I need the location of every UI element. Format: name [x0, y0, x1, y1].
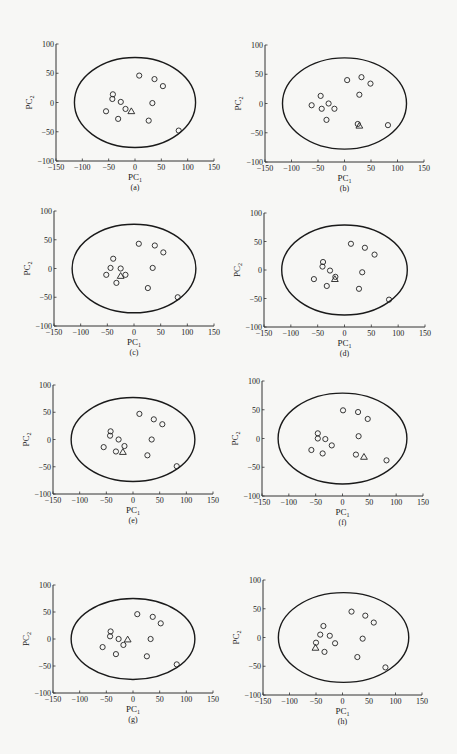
circle-marker: [122, 443, 127, 448]
x-tick-label: 50: [365, 697, 373, 706]
circle-marker: [146, 118, 151, 123]
y-tick-label: −50: [41, 128, 54, 137]
panel-caption: (a): [131, 183, 140, 192]
circle-marker: [101, 445, 106, 450]
circle-marker: [320, 451, 325, 456]
y-tick-label: 50: [46, 69, 54, 78]
confidence-ellipse: [278, 393, 407, 484]
circle-marker: [150, 100, 155, 105]
circle-marker: [174, 662, 179, 667]
pca-figure: −150−100−50050100150−100−50050100PC1(a)P…: [0, 0, 457, 754]
circle-marker: [116, 116, 121, 121]
y-tick-label: 50: [43, 608, 51, 617]
circle-marker: [332, 641, 337, 646]
x-axis-label: PC1: [126, 505, 140, 516]
x-tick-label: 0: [341, 498, 345, 507]
circle-marker: [148, 636, 153, 641]
circle-marker: [326, 101, 331, 106]
circle-marker: [116, 437, 121, 442]
circle-marker: [114, 280, 119, 285]
circle-marker: [315, 436, 320, 441]
y-tick-label: −100: [243, 492, 260, 501]
y-axis-label: PC2: [232, 263, 243, 277]
x-tick-label: −100: [283, 164, 300, 173]
circle-marker: [160, 84, 165, 89]
panel-caption: (b): [340, 184, 350, 193]
circle-marker: [329, 443, 334, 448]
circle-marker: [152, 77, 157, 82]
y-tick-label: −100: [245, 323, 262, 332]
x-axis-label: PC1: [126, 704, 140, 715]
y-tick-label: −50: [39, 293, 52, 302]
circle-marker: [323, 436, 328, 441]
x-tick-label: 50: [365, 498, 373, 507]
circle-marker: [355, 654, 360, 659]
triangle-marker: [312, 644, 319, 650]
circle-marker: [349, 609, 354, 614]
x-tick-label: −100: [74, 163, 91, 172]
circle-marker: [151, 417, 156, 422]
circle-marker: [356, 286, 361, 291]
x-tick-label: 100: [390, 498, 402, 507]
y-tick-label: 100: [42, 40, 54, 49]
y-axis-label: PC2: [233, 96, 244, 110]
y-tick-label: 50: [254, 238, 262, 247]
circle-marker: [362, 245, 367, 250]
panel-b: −150−100−50050100150−100−50050100PC1(b)P…: [233, 41, 430, 193]
x-tick-label: −50: [100, 695, 113, 704]
x-tick-label: 150: [208, 328, 220, 337]
y-tick-label: −50: [247, 463, 260, 472]
x-axis-label: PC1: [337, 338, 351, 349]
panel-g: −150−100−50050100150−100−50050100PC1(g)P…: [21, 581, 219, 724]
x-tick-label: 150: [208, 163, 220, 172]
x-tick-label: 100: [392, 329, 404, 338]
x-tick-label: −50: [310, 697, 323, 706]
circle-marker: [318, 93, 323, 98]
x-tick-label: 0: [132, 328, 136, 337]
x-tick-label: 150: [419, 329, 431, 338]
circle-marker: [353, 452, 358, 457]
x-tick-label: −100: [71, 695, 88, 704]
circle-marker: [118, 99, 123, 104]
y-tick-label: 50: [43, 408, 51, 417]
panel-a: −150−100−50050100150−100−50050100PC1(a)P…: [24, 40, 220, 192]
y-tick-label: 100: [39, 581, 51, 590]
x-tick-label: 100: [180, 496, 192, 505]
x-tick-label: −50: [311, 329, 324, 338]
circle-marker: [356, 434, 361, 439]
y-tick-label: 0: [259, 100, 263, 109]
circle-marker: [359, 75, 364, 80]
x-tick-label: 50: [156, 695, 164, 704]
circle-marker: [174, 464, 179, 469]
x-tick-label: −50: [101, 328, 114, 337]
x-tick-label: 150: [416, 697, 428, 706]
y-tick-label: 100: [40, 207, 52, 216]
circle-marker: [345, 78, 350, 83]
confidence-ellipse: [74, 57, 195, 147]
x-axis-label: PC1: [337, 173, 351, 184]
circle-marker: [108, 265, 113, 270]
circle-marker: [123, 272, 128, 277]
x-tick-label: 50: [367, 164, 375, 173]
circle-marker: [152, 243, 157, 248]
circle-marker: [324, 117, 329, 122]
y-tick-label: 100: [39, 381, 51, 390]
circle-marker: [324, 283, 329, 288]
y-tick-label: 0: [257, 634, 261, 643]
x-tick-label: −50: [312, 164, 325, 173]
y-tick-label: 50: [252, 406, 260, 415]
x-tick-label: −100: [281, 697, 298, 706]
x-tick-label: 50: [367, 329, 375, 338]
triangle-marker: [361, 454, 368, 460]
x-tick-label: 100: [181, 328, 193, 337]
y-tick-label: −50: [38, 662, 51, 671]
circle-marker: [104, 272, 109, 277]
circle-marker: [123, 106, 128, 111]
circle-marker: [103, 109, 108, 114]
y-tick-label: −100: [246, 158, 263, 167]
circle-marker: [108, 629, 113, 634]
x-tick-label: 0: [343, 164, 347, 173]
confidence-ellipse: [282, 58, 406, 149]
y-tick-label: 0: [47, 635, 51, 644]
y-axis-label: PC2: [24, 95, 35, 109]
